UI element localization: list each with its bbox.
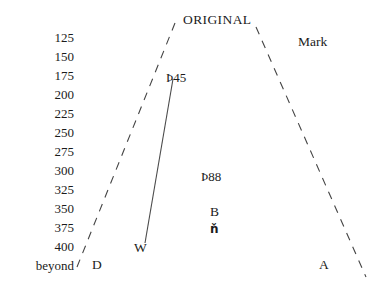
point-marker-88: Þ88 [201,170,221,183]
axis-tick-9: 350 [12,202,74,215]
axis-tick-0: 125 [12,31,74,44]
mark-solid-line [145,79,173,243]
axis-tick-4: 225 [12,107,74,120]
axis-tick-1: 150 [12,50,74,63]
right-boundary-dashed-line [256,27,366,277]
annotation-letter-b: B [210,205,219,219]
axis-tick-beyond: beyond [12,259,74,272]
axis-tick-2: 175 [12,69,74,82]
legend-label-mark: Mark [298,35,327,49]
axis-tick-11: 400 [12,240,74,253]
axis-tick-5: 250 [12,126,74,139]
axis-tick-10: 375 [12,221,74,234]
figure-canvas: ORIGINAL Mark 125 150 175 200 225 250 27… [0,0,380,283]
axis-tick-8: 325 [12,183,74,196]
axis-tick-3: 200 [12,88,74,101]
point-label-45: 45 [173,70,186,85]
point-marker-45: Þ45 [166,71,186,84]
point-label-88: 88 [208,169,221,184]
axis-tick-7: 300 [12,164,74,177]
axis-tick-6: 275 [12,145,74,158]
corner-label-d: D [92,258,102,272]
corner-label-a: A [319,258,329,272]
corner-label-w: W [134,241,147,255]
annotation-n-glyph-icon: ň [210,223,219,235]
page-title: ORIGINAL [183,13,251,27]
left-boundary-dashed-line [75,23,175,272]
